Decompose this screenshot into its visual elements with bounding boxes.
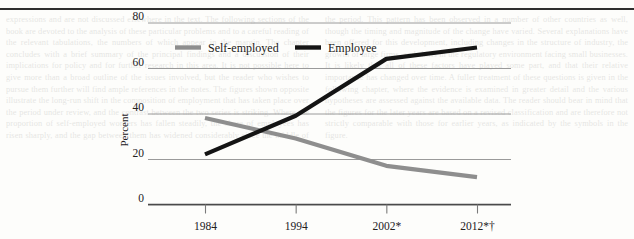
legend-label-employee: Employee [328,41,377,55]
series-line-employee [205,48,477,155]
x-tick-label: 2002* [372,220,401,232]
x-tick-label: 1984 [194,220,217,232]
x-axis-tick-labels: 198419942002*2012*† [194,220,495,232]
x-axis-ticks [206,205,478,214]
line-chart-figure: 020406080 Percent 198419942002*2012*† Se… [0,0,634,239]
series-line-self-employed [205,118,477,177]
x-tick-label: 2012*† [460,220,495,232]
y-tick-label: 0 [138,192,144,204]
y-tick-label: 20 [133,147,145,159]
y-axis-title: Percent [118,114,130,147]
x-tick-label: 1994 [285,220,308,232]
chart-legend: Self-employed Employee [175,41,377,55]
legend-label-self-employed: Self-employed [208,41,279,55]
y-tick-label: 60 [133,56,145,68]
y-axis-tick-labels: 020406080 [133,10,145,204]
y-tick-label: 40 [133,101,145,113]
y-tick-label: 80 [133,10,145,22]
